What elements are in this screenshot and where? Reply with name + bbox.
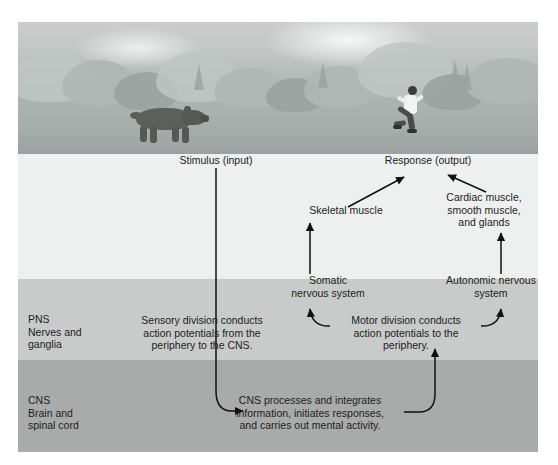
sensory-line-3: periphery to the CNS.: [118, 339, 286, 352]
node-skeletal-muscle: Skeletal muscle: [276, 204, 416, 217]
forest-scene-photo: [18, 22, 538, 154]
stimulus-label: Stimulus (input): [116, 154, 316, 167]
skeletal-muscle-label: Skeletal muscle: [276, 204, 416, 217]
node-stimulus: Stimulus (input): [116, 154, 316, 167]
motor-line-1: Motor division conducts: [326, 314, 486, 327]
pns-sub-2: ganglia: [28, 338, 82, 351]
cns-title: CNS: [28, 394, 79, 407]
response-label: Response (output): [328, 154, 528, 167]
pns-sub-1: Nerves and: [28, 326, 82, 339]
nervous-system-diagram: PNS Nerves and ganglia CNS Brain and spi…: [18, 12, 538, 452]
node-cardiac-smooth-glands: Cardiac muscle, smooth muscle, and gland…: [426, 191, 538, 229]
cardiac-line-1: Cardiac muscle,: [426, 191, 538, 204]
node-motor-division: Motor division conducts action potential…: [326, 314, 486, 352]
motor-line-3: periphery.: [326, 339, 486, 352]
node-somatic-nervous-system: Somatic nervous system: [268, 274, 388, 299]
autonomic-line-2: system: [436, 287, 538, 300]
cns-sub-1: Brain and: [28, 407, 79, 420]
photo-band: [18, 22, 538, 154]
pns-title: PNS: [28, 313, 82, 326]
sensory-line-1: Sensory division conducts: [118, 314, 286, 327]
ground: [18, 128, 538, 154]
sensory-line-2: action potentials from the: [118, 327, 286, 340]
cardiac-line-3: and glands: [426, 216, 538, 229]
node-cns-processes: CNS processes and integrates information…: [196, 394, 424, 432]
cns-line-3: and carries out mental activity.: [196, 419, 424, 432]
cns-line-1: CNS processes and integrates: [196, 394, 424, 407]
node-autonomic-nervous-system: Autonomic nervous system: [436, 274, 538, 299]
motor-line-2: action potentials to the: [326, 327, 486, 340]
cns-band-label: CNS Brain and spinal cord: [28, 394, 79, 432]
somatic-line-2: nervous system: [268, 287, 388, 300]
node-response: Response (output): [328, 154, 528, 167]
cardiac-line-2: smooth muscle,: [426, 204, 538, 217]
pns-band-label: PNS Nerves and ganglia: [28, 313, 82, 351]
cns-line-2: information, initiates responses,: [196, 407, 424, 420]
cns-sub-2: spinal cord: [28, 419, 79, 432]
node-sensory-division: Sensory division conducts action potenti…: [118, 314, 286, 352]
somatic-line-1: Somatic: [268, 274, 388, 287]
treeline: [18, 46, 538, 132]
running-person-figure: [393, 86, 427, 138]
autonomic-line-1: Autonomic nervous: [436, 274, 538, 287]
bear-figure: [128, 102, 206, 140]
